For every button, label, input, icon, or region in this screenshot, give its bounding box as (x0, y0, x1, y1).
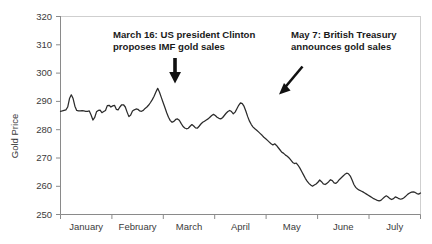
y-tick-label: 320 (36, 11, 52, 22)
y-tick-label: 260 (36, 180, 52, 191)
gold-price-chart: 320 310 300 290 280 270 260 250 Gold Pri… (0, 0, 432, 244)
x-tick-label-may: May (283, 221, 301, 232)
y-tick-label: 280 (36, 124, 52, 135)
y-tick-label: 310 (36, 39, 52, 50)
x-tick-labels: January February March April May June Ju… (69, 221, 403, 232)
y-tick-labels: 320 310 300 290 280 270 260 250 (36, 11, 52, 220)
clinton-annotation-line1: March 16: US president Clinton (113, 29, 255, 40)
down-arrow-icon (169, 58, 181, 84)
y-tick-label: 270 (36, 152, 52, 163)
x-tick-label-february: February (119, 221, 157, 232)
x-tick-label-june: June (333, 221, 354, 232)
gold-price-line (61, 88, 421, 201)
clinton-annotation-line2: proposes IMF gold sales (113, 41, 225, 52)
x-tick-marks (61, 215, 421, 220)
clinton-annotation: March 16: US president Clinton proposes … (113, 29, 255, 84)
x-tick-label-april: April (231, 221, 250, 232)
chart-canvas: 320 310 300 290 280 270 260 250 Gold Pri… (0, 0, 432, 244)
x-tick-label-march: March (176, 221, 202, 232)
y-tick-marks (56, 17, 61, 215)
treasury-annotation: May 7: British Treasury announces gold s… (279, 29, 397, 95)
y-tick-label: 290 (36, 95, 52, 106)
y-tick-label: 300 (36, 67, 52, 78)
y-tick-label: 250 (36, 209, 52, 220)
y-axis-title: Gold Price (9, 114, 20, 158)
x-tick-label-july: July (386, 221, 403, 232)
x-tick-label-january: January (69, 221, 103, 232)
treasury-annotation-line1: May 7: British Treasury (291, 29, 397, 40)
treasury-annotation-line2: announces gold sales (291, 41, 391, 52)
diagonal-arrow-icon (279, 67, 303, 95)
